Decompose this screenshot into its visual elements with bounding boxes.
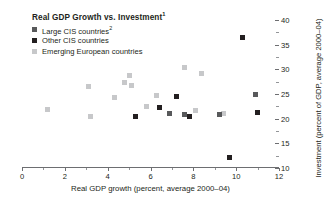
data-point-large <box>167 111 172 116</box>
x-tick-label: 4 <box>106 172 110 181</box>
data-point-other <box>187 114 192 119</box>
x-tick-label: 10 <box>232 172 240 181</box>
x-minor-tick <box>129 168 130 170</box>
data-point-euro <box>127 73 132 78</box>
data-point-other <box>157 105 162 110</box>
x-minor-tick <box>215 168 216 170</box>
y-tick-label: 35 <box>281 40 289 49</box>
y-tick-label: 15 <box>281 139 289 148</box>
data-point-euro <box>144 104 149 109</box>
plot-area <box>22 20 279 168</box>
data-point-other <box>133 114 138 119</box>
x-axis-title: Real GDP growth (percent, average 2000–0… <box>22 184 279 193</box>
y-axis-ticks: 10152025303540 <box>279 20 280 168</box>
x-tick-label: 12 <box>275 172 283 181</box>
data-point-large <box>253 92 258 97</box>
y-minor-tick <box>276 156 279 157</box>
x-minor-tick <box>258 168 259 170</box>
y-tick <box>275 69 279 70</box>
y-tick <box>275 168 279 169</box>
data-point-other <box>240 35 245 40</box>
chart-figure: Real GDP Growth vs. Investment1 Large CI… <box>0 0 334 204</box>
x-minor-tick <box>86 168 87 170</box>
data-point-euro <box>88 114 93 119</box>
y-tick-label: 25 <box>281 90 289 99</box>
data-point-euro <box>86 84 91 89</box>
data-point-other <box>174 94 179 99</box>
data-point-euro <box>112 95 117 100</box>
y-tick-label: 20 <box>281 114 289 123</box>
x-tick <box>151 168 152 171</box>
y-tick <box>275 94 279 95</box>
x-tick-label: 6 <box>148 172 152 181</box>
y-tick-label: 10 <box>281 164 289 173</box>
x-tick <box>108 168 109 171</box>
data-point-euro <box>154 93 159 98</box>
y-minor-tick <box>276 57 279 58</box>
data-point-large <box>217 112 222 117</box>
x-tick-label: 8 <box>191 172 195 181</box>
y-tick <box>275 20 279 21</box>
y-tick-label: 30 <box>281 65 289 74</box>
y-tick <box>275 143 279 144</box>
x-tick <box>193 168 194 171</box>
data-point-euro <box>199 71 204 76</box>
data-point-other <box>227 155 232 160</box>
data-point-euro <box>221 111 226 116</box>
x-tick-label: 2 <box>63 172 67 181</box>
x-minor-tick <box>43 168 44 170</box>
x-tick-label: 0 <box>20 172 24 181</box>
x-tick <box>236 168 237 171</box>
data-point-other <box>255 110 260 115</box>
x-tick <box>22 168 23 171</box>
x-tick <box>65 168 66 171</box>
data-point-euro <box>193 108 198 113</box>
data-point-euro <box>182 65 187 70</box>
x-tick <box>279 168 280 171</box>
y-tick <box>275 119 279 120</box>
data-point-euro <box>129 83 134 88</box>
y-axis-title: Investment (percent of GDP, average 2000… <box>314 18 323 177</box>
y-minor-tick <box>276 131 279 132</box>
y-tick <box>275 45 279 46</box>
data-point-euro <box>45 107 50 112</box>
data-point-euro <box>122 80 127 85</box>
y-minor-tick <box>276 82 279 83</box>
y-tick-label: 40 <box>281 16 289 25</box>
y-minor-tick <box>276 106 279 107</box>
chart-title-footnote-marker: 1 <box>162 11 165 17</box>
x-minor-tick <box>172 168 173 170</box>
y-minor-tick <box>276 32 279 33</box>
